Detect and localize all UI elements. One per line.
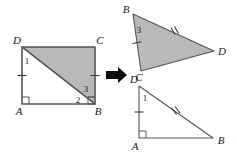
vertex-label-d-bottom: D	[129, 73, 138, 85]
bottom-right-figure-triangle-dab: D A B 1	[129, 73, 225, 152]
plain-triangle-dab-right	[139, 86, 213, 138]
left-figure-rectangle-abcd: D C B A 1 2 3	[12, 34, 104, 117]
hash-mark-side-bd-2	[175, 27, 179, 34]
vertex-label-a-left: A	[15, 105, 23, 117]
angle-label-3-top: 3	[137, 25, 142, 35]
transform-arrow	[106, 67, 127, 83]
vertex-label-d-left: D	[12, 34, 21, 46]
vertex-label-c-left: C	[96, 34, 104, 46]
vertex-label-a-bottom: A	[131, 140, 139, 152]
angle-label-3-left: 3	[84, 84, 89, 94]
angle-label-1-bottom: 1	[143, 93, 148, 103]
vertex-label-b-top: B	[123, 3, 130, 15]
shaded-triangle-bcd	[133, 14, 214, 71]
angle-label-1-left: 1	[25, 56, 30, 66]
arrow-right-icon	[106, 67, 127, 83]
geometry-canvas: D C B A 1 2 3 B C D 3	[0, 0, 237, 157]
vertex-label-d-top: D	[217, 45, 226, 57]
geometry-figure: D C B A 1 2 3 B C D 3	[0, 0, 237, 157]
angle-label-2-left: 2	[76, 95, 81, 105]
vertex-label-b-left: B	[95, 105, 102, 117]
vertex-label-b-bottom: B	[218, 134, 225, 146]
top-right-figure-triangle-bcd: B C D 3	[123, 3, 226, 83]
